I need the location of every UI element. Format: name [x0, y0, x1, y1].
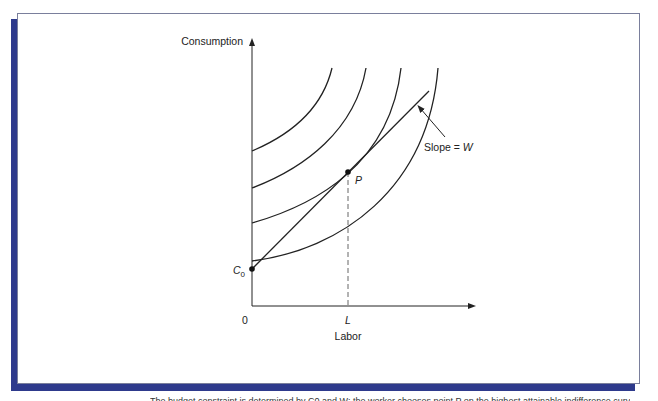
point-p: [345, 169, 351, 175]
labor-consumption-diagram: Consumption Labor 0 L P C0 Slope = W: [0, 0, 658, 401]
budget-line: [252, 91, 429, 269]
indifference-curve-4: [252, 68, 438, 261]
indifference-curve-3: [252, 68, 401, 223]
slope-label: Slope = W: [424, 141, 474, 153]
point-p-label: P: [355, 174, 362, 186]
x-axis-label: Labor: [335, 330, 362, 342]
origin-label: 0: [242, 314, 248, 326]
intercept-label: C0: [233, 264, 246, 279]
point-c0: [249, 266, 255, 272]
figure-caption-cropped: The budget constraint is determined by C…: [150, 396, 630, 401]
x-tick-label-l: L: [345, 314, 351, 326]
y-axis-label: Consumption: [181, 35, 243, 47]
indifference-curve-1: [252, 68, 332, 151]
